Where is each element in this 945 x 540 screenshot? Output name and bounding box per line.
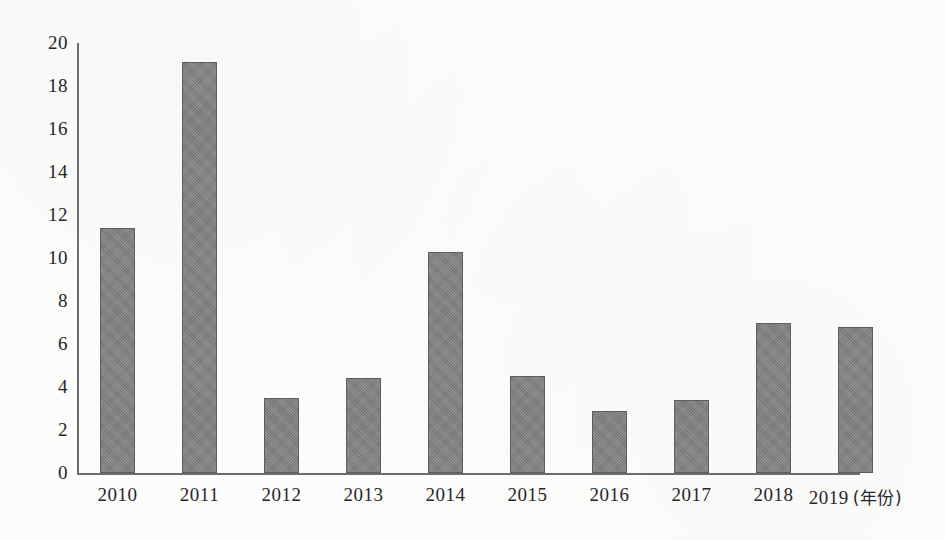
bar xyxy=(674,400,709,473)
bar xyxy=(100,228,135,473)
x-axis-unit-label: (年份) xyxy=(853,488,902,508)
y-tick-label: 6 xyxy=(22,333,68,355)
bar xyxy=(264,398,299,473)
x-tick-label: 2019(年份) xyxy=(796,484,916,509)
bar xyxy=(510,376,545,473)
y-tick-label: 4 xyxy=(22,376,68,398)
bar xyxy=(428,252,463,473)
y-tick-label: 2 xyxy=(22,419,68,441)
x-axis-line xyxy=(77,473,860,475)
bar-chart: 02468101214161820 2010201120122013201420… xyxy=(0,0,945,540)
y-tick-label: 8 xyxy=(22,290,68,312)
y-tick-label: 12 xyxy=(22,204,68,226)
y-tick-label: 20 xyxy=(22,32,68,54)
bar xyxy=(592,411,627,473)
y-tick-label: 0 xyxy=(22,462,68,484)
y-tick-label: 16 xyxy=(22,118,68,140)
bar xyxy=(838,327,873,473)
bar xyxy=(182,62,217,473)
y-tick-label: 10 xyxy=(22,247,68,269)
bar xyxy=(756,323,791,474)
y-tick-label: 18 xyxy=(22,75,68,97)
y-tick-label: 14 xyxy=(22,161,68,183)
bar xyxy=(346,378,381,473)
plot-area xyxy=(77,43,860,473)
